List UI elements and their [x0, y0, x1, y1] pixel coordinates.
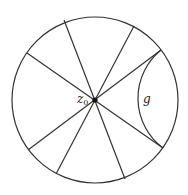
center-point-z0	[92, 97, 97, 102]
label-g: g	[143, 92, 151, 106]
hyperbolic-disk-figure: z0 g	[0, 0, 188, 195]
